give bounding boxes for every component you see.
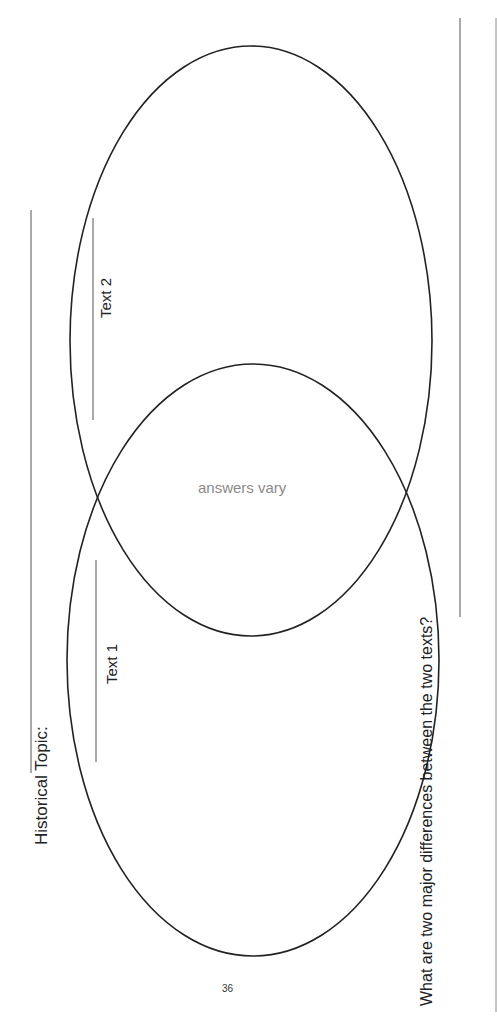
- venn-circle-text-2: [70, 46, 432, 636]
- historical-topic-label: Historical Topic:: [32, 726, 52, 845]
- text-2-label: Text 2: [97, 278, 114, 318]
- worksheet-page: Historical Topic: Text 2 Text 1 What are…: [0, 0, 497, 1019]
- text-1-label: Text 1: [103, 644, 120, 684]
- venn-circle-text-1: [67, 364, 439, 956]
- differences-question: What are two major differences between t…: [418, 617, 436, 1006]
- page-number: 36: [222, 983, 233, 994]
- overlap-answer-text: answers vary: [198, 479, 286, 496]
